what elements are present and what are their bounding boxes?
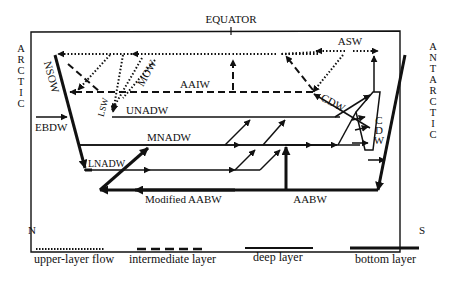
label-mow: MOW (134, 57, 159, 88)
svg-text:C: C (17, 98, 24, 109)
legend-label-bottom-layer: bottom layer (355, 252, 416, 266)
svg-text:A: A (429, 74, 437, 85)
label-aabw: AABW (293, 193, 327, 205)
svg-text:I: I (19, 87, 23, 98)
label-asw: ASW (338, 35, 363, 47)
svg-text:R: R (17, 54, 24, 65)
svg-text:A: A (17, 43, 25, 54)
label-modified-aabw: Modified AABW (145, 193, 222, 205)
label-lsw: LSW (96, 96, 111, 117)
svg-text:T: T (430, 63, 437, 74)
ocean-basin-frame (31, 31, 400, 252)
deep-layer-flows (36, 56, 385, 170)
svg-text:C: C (429, 129, 436, 140)
svg-text:C: C (429, 96, 436, 107)
label-cdw-vertical-w: W (374, 134, 385, 146)
label-ebdw: EBDW (35, 121, 68, 133)
label-aaiw: AAIW (180, 78, 211, 90)
legend-label-deep-layer: deep layer (253, 250, 303, 264)
label-cdw: CDW (319, 91, 348, 114)
ocean-circulation-diagram: EQUATOR A R C T I C A N T A R C T I C (0, 0, 455, 282)
label-lnadw: LNADW (88, 158, 126, 169)
legend-label-intermediate-layer: intermediate layer (129, 252, 216, 266)
antarctic-label: A N T A R C T I C (429, 41, 437, 140)
svg-text:N: N (429, 52, 437, 63)
label-north: N (28, 224, 36, 236)
legend: upper-layer flow intermediate layer deep… (34, 248, 419, 266)
legend-label-upper-layer: upper-layer flow (34, 252, 114, 266)
svg-text:C: C (17, 65, 24, 76)
arctic-label: A R C T I C (17, 43, 25, 109)
svg-text:T: T (430, 107, 437, 118)
svg-text:R: R (429, 85, 436, 96)
label-unadw: UNADW (126, 104, 169, 116)
svg-text:T: T (18, 76, 25, 87)
svg-text:A: A (429, 41, 437, 52)
label-south: S (419, 224, 425, 236)
equator-label: EQUATOR (205, 13, 257, 25)
label-mnadw: MNADW (147, 131, 192, 143)
svg-text:I: I (431, 118, 435, 129)
